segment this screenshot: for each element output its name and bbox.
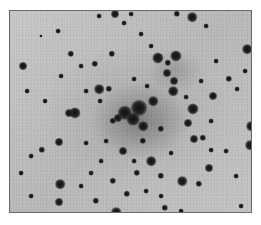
- star: [243, 69, 248, 74]
- star: [177, 176, 187, 186]
- star: [19, 62, 27, 70]
- star: [184, 119, 192, 127]
- star: [184, 95, 189, 100]
- star: [187, 12, 197, 22]
- star: [179, 209, 184, 213]
- star: [25, 89, 30, 94]
- star: [205, 164, 213, 172]
- star: [239, 204, 244, 209]
- star: [89, 171, 94, 176]
- star: [132, 77, 137, 82]
- star: [29, 194, 34, 199]
- star: [159, 194, 164, 199]
- star: [97, 14, 102, 19]
- star: [139, 32, 144, 37]
- star: [55, 198, 63, 206]
- star-field-image: [9, 10, 252, 213]
- star: [245, 140, 252, 150]
- star: [144, 189, 149, 194]
- star: [43, 99, 48, 104]
- star: [132, 159, 137, 164]
- star: [199, 79, 204, 84]
- star: [242, 44, 252, 54]
- star: [94, 84, 104, 94]
- star: [246, 121, 252, 131]
- star: [190, 135, 198, 143]
- star: [122, 21, 127, 26]
- star: [59, 74, 64, 79]
- star: [99, 159, 104, 164]
- star: [169, 151, 174, 156]
- star: [235, 87, 240, 92]
- star: [55, 179, 65, 189]
- star: [84, 89, 89, 94]
- star: [224, 149, 229, 154]
- star: [65, 109, 73, 117]
- star: [234, 174, 239, 179]
- star: [119, 147, 127, 155]
- star: [209, 148, 214, 153]
- star: [129, 12, 134, 17]
- star: [138, 121, 148, 131]
- star: [104, 139, 109, 144]
- star: [204, 24, 209, 29]
- star: [29, 154, 34, 159]
- star: [84, 141, 89, 146]
- star: [168, 86, 178, 96]
- star: [111, 10, 119, 18]
- star: [98, 99, 103, 104]
- star: [79, 184, 84, 189]
- star: [170, 77, 178, 85]
- star: [214, 59, 219, 64]
- star: [111, 207, 121, 213]
- star: [163, 69, 171, 77]
- star: [148, 96, 158, 106]
- star: [209, 119, 214, 124]
- star: [145, 84, 150, 89]
- star: [209, 92, 217, 100]
- star: [55, 138, 63, 146]
- star: [19, 171, 24, 176]
- star: [56, 29, 61, 34]
- star: [146, 156, 156, 166]
- star: [79, 64, 84, 69]
- star: [149, 44, 154, 49]
